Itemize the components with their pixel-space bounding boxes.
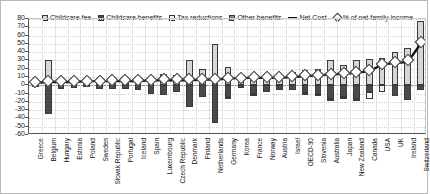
y-axis-tick-mark [25,134,28,135]
x-axis-tick-label: Switzerland [423,138,430,172]
x-axis-tick-label: Israel [294,138,301,154]
x-axis-tick-label: Australia [333,138,340,163]
x-axis-tick-label: UK [397,138,404,147]
x-axis-tick-label: Korea [243,138,250,155]
y-axis-tick-label: 0 [1,80,25,87]
y-axis-tick-label: -50 [1,122,25,129]
y-axis-tick-label: 60 [1,31,25,38]
x-axis-tick-label: OECD-30 [307,138,314,166]
x-axis-tick-label: Japan [346,138,353,156]
x-axis-tick-label: Greece [37,138,44,159]
y-axis-tick-label: 80 [1,14,25,21]
y-axis-tick-label: -30 [1,105,25,112]
x-axis-tick-label: USA [384,138,391,151]
plot-inner [29,19,425,133]
x-axis-tick-label: Norway [269,138,276,160]
x-axis-tick-label: Austria [281,138,288,158]
y-axis-tick-label: 10 [1,72,25,79]
y-axis-tick-label: -20 [1,97,25,104]
x-axis-tick-label: Sweden [102,138,109,162]
x-axis-tick-label: Portugal [127,138,134,162]
x-axis-tick-label: Estonia [76,138,83,160]
x-axis-tick-label: Slovenia [320,138,327,163]
x-axis-tick-label: Slovak Republic [114,138,121,185]
x-axis: GreeceBelgiumHungaryEstoniaPolandSwedenS… [28,136,426,194]
x-axis-tick-label: France [256,138,263,158]
y-axis-tick-label: 30 [1,55,25,62]
x-axis-tick-label: Netherlands [217,138,224,173]
x-axis-tick-label: Iceland [140,138,147,159]
y-axis-tick-label: 70 [1,22,25,29]
x-axis-tick-label: Denmark [191,138,198,164]
y-axis-tick-label: 50 [1,39,25,46]
x-axis-tick-label: Germany [230,138,237,165]
x-axis-tick-label: Ireland [410,138,417,158]
x-axis-tick-label: Spain [153,138,160,155]
y-axis-tick-label: 40 [1,47,25,54]
x-axis-tick-label: Hungary [63,138,70,163]
x-axis-tick-label: Poland [89,138,96,158]
y-axis-tick-label: 20 [1,64,25,71]
x-axis-tick-label: Canada [371,138,378,161]
x-axis-tick-label: Finland [204,138,211,159]
y-axis-tick-label: -40 [1,113,25,120]
plot-area [28,18,426,134]
x-axis-tick-label: Belgium [50,138,57,161]
x-axis-tick-label: New Zealand [358,138,365,176]
y-axis-tick-label: -60 [1,130,25,137]
x-axis-tick-label: Czech Republic [179,138,186,184]
y-axis-tick-label: -10 [1,89,25,96]
x-axis-tick-label: Luxembourg [166,138,173,174]
